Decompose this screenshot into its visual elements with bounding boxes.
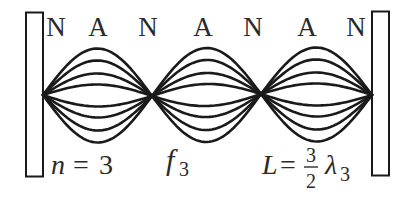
label-node-4: N — [346, 12, 366, 42]
frequency-subscript: 3 — [179, 158, 189, 180]
node-antinode-labels: N A N A N A N — [46, 12, 366, 42]
label-node-2: N — [138, 12, 158, 42]
wavelength-subscript: 3 — [340, 163, 350, 185]
frequency-symbol: f — [166, 143, 178, 176]
left-wall — [26, 13, 43, 177]
length-label: L = 3 2 λ 3 — [261, 144, 350, 192]
wave-envelope-curves — [43, 48, 372, 143]
length-eq: = — [280, 149, 296, 180]
harmonic-var: n — [51, 149, 65, 180]
label-node-1: N — [46, 12, 66, 42]
frequency-label: f 3 — [166, 143, 189, 180]
label-antinode-2: A — [193, 12, 213, 42]
label-antinode-1: A — [88, 12, 108, 42]
label-node-3: N — [243, 12, 263, 42]
fraction-denominator: 2 — [306, 170, 316, 192]
harmonic-number-label: n = 3 — [51, 149, 113, 180]
wavelength-symbol: λ — [324, 149, 337, 180]
length-var: L — [261, 149, 278, 180]
fraction-numerator: 3 — [306, 144, 316, 166]
harmonic-value: 3 — [99, 149, 113, 180]
harmonic-eq: = — [73, 149, 89, 180]
right-wall — [372, 12, 389, 176]
label-antinode-3: A — [297, 12, 317, 42]
standing-wave-diagram: N A N A N A N n = 3 f 3 L = 3 2 λ 3 — [0, 0, 412, 199]
